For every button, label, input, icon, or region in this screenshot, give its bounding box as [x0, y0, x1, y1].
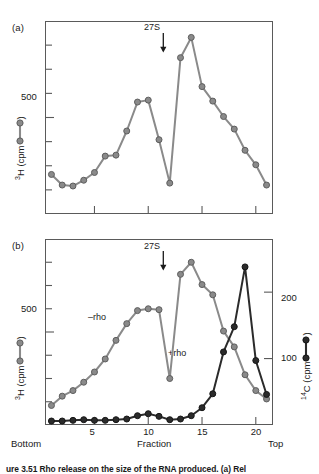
panel-a-y-legend-symbol: [15, 119, 25, 145]
figure-caption: ure 3.51 Rho release on the size of the …: [6, 464, 246, 474]
x-axis-right-cap: Top: [268, 438, 283, 449]
panel-b-ytick-label-500: 500: [21, 303, 37, 314]
x-axis-left-cap: Bottom: [11, 438, 41, 449]
panel-b-y-right-legend-symbol: [301, 336, 311, 362]
panel-a-y-axis-text: H (cpm: [15, 145, 26, 176]
figure-container: (a) 3H (cpm ) 500 27S (b) 3H (cpm ) 500: [0, 0, 319, 474]
x-axis-tick-label-20: 20: [251, 426, 262, 437]
panel-a-y-isotope-superscript: 3: [14, 176, 21, 180]
panel-b-y-right-isotope-superscript: 14: [300, 392, 307, 400]
x-axis-tick-label-10: 10: [143, 426, 154, 437]
x-axis-title: Fraction: [137, 438, 171, 449]
panel-b-y-left-isotope-superscript: 3: [14, 396, 21, 400]
x-axis-tick-label-5: 5: [89, 426, 94, 437]
panel-a-tag: (a): [12, 22, 24, 33]
panel-b-y2tick-label-100: 100: [281, 352, 297, 363]
panel-b-y-left-legend-symbol: [15, 339, 25, 365]
panel-a-ytick-label-500: 500: [21, 91, 37, 102]
panel-b-plot-canvas: [45, 239, 273, 425]
panel-b-y-left-axis-text: H (cpm: [15, 365, 26, 396]
panel-a-plot-canvas: [45, 21, 273, 214]
panel-b-y-right-axis-text: C (cpm: [301, 362, 312, 393]
panel-b-tag: (b): [12, 240, 24, 251]
panel-b-y2tick-label-200: 200: [281, 292, 297, 303]
x-axis-tick-label-15: 15: [197, 426, 208, 437]
